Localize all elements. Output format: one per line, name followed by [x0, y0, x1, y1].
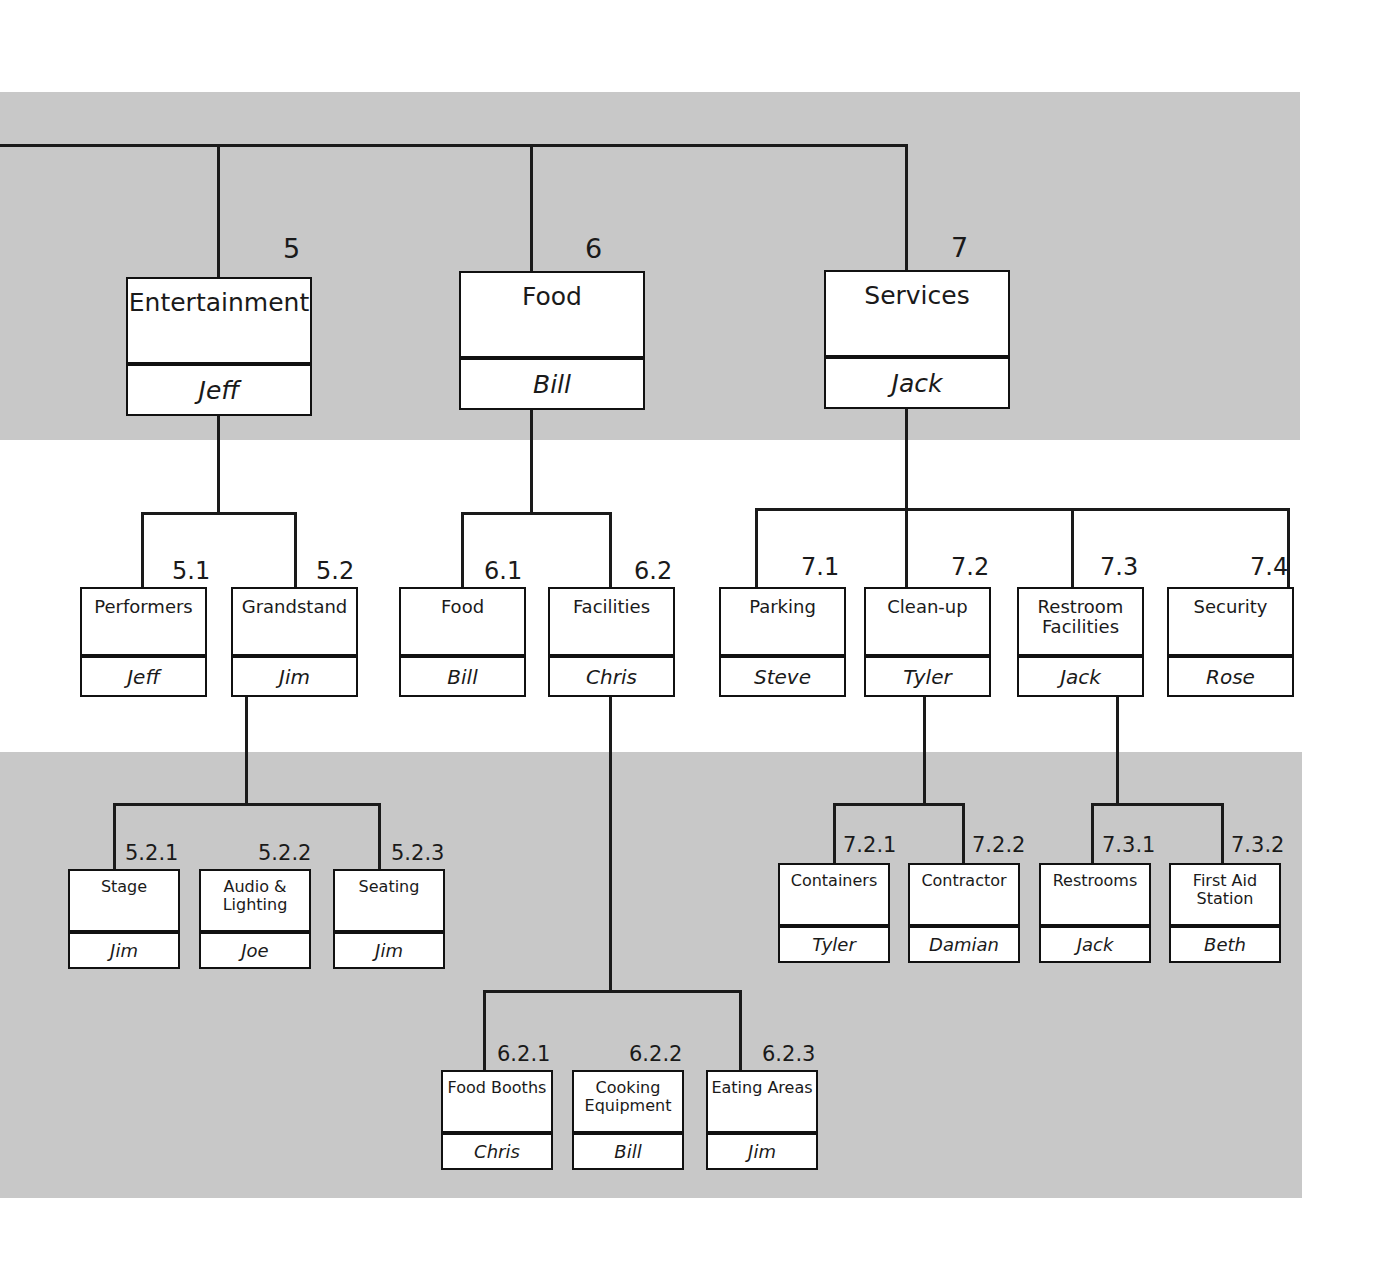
- connector-6-to-6-2: [609, 512, 612, 587]
- wbs-code-6-1: 6.1: [484, 557, 522, 585]
- wbs-node-food-sub[interactable]: Food Bill: [399, 587, 526, 697]
- connector-5-bus: [141, 512, 297, 515]
- connector-7-2-bus: [833, 803, 965, 806]
- connector-7-3-to-7-3-2: [1221, 803, 1224, 869]
- wbs-node-security[interactable]: Security Rose: [1167, 587, 1294, 697]
- connector-7-2-down: [923, 697, 926, 805]
- wbs-node-title: Entertainment: [128, 279, 310, 362]
- wbs-node-owner: Jack: [826, 355, 1008, 407]
- wbs-node-clean-up[interactable]: Clean-up Tyler: [864, 587, 991, 697]
- connector-5-down: [217, 415, 220, 514]
- connector-7-3-down: [1116, 697, 1119, 805]
- wbs-code-7-3-1: 7.3.1: [1102, 833, 1155, 857]
- wbs-node-title: Restrooms: [1041, 865, 1149, 924]
- wbs-node-owner: Jack: [1041, 924, 1149, 961]
- wbs-node-facilities[interactable]: Facilities Chris: [548, 587, 675, 697]
- wbs-node-audio-lighting[interactable]: Audio & Lighting Joe: [199, 869, 311, 969]
- wbs-node-owner: Joe: [201, 930, 309, 967]
- wbs-node-stage[interactable]: Stage Jim: [68, 869, 180, 969]
- wbs-code-6: 6: [585, 233, 602, 264]
- wbs-node-title: Grandstand: [233, 589, 356, 654]
- wbs-node-title: Services: [826, 272, 1008, 355]
- wbs-node-owner: Jim: [335, 930, 443, 967]
- connector-6-down: [530, 410, 533, 514]
- wbs-node-performers[interactable]: Performers Jeff: [80, 587, 207, 697]
- wbs-node-title: Cooking Equipment: [574, 1072, 682, 1131]
- wbs-node-owner: Jim: [70, 930, 178, 967]
- wbs-node-title: Clean-up: [866, 589, 989, 654]
- wbs-node-owner: Jim: [233, 654, 356, 695]
- wbs-node-entertainment[interactable]: Entertainment Jeff: [126, 277, 312, 416]
- wbs-node-title: Security: [1169, 589, 1292, 654]
- wbs-node-title: Contractor: [910, 865, 1018, 924]
- wbs-code-7-2-1: 7.2.1: [843, 833, 896, 857]
- wbs-node-title: Food Booths: [443, 1072, 551, 1131]
- connector-7-down: [905, 407, 908, 587]
- wbs-node-owner: Tyler: [780, 924, 888, 961]
- connector-5-2-to-5-2-3: [378, 803, 381, 869]
- wbs-node-owner: Chris: [550, 654, 673, 695]
- wbs-node-owner: Steve: [721, 654, 844, 695]
- wbs-node-title: Seating: [335, 871, 443, 930]
- wbs-node-first-aid-station[interactable]: First Aid Station Beth: [1169, 863, 1281, 963]
- connector-root-to-5: [217, 144, 220, 277]
- wbs-code-6-2-1: 6.2.1: [497, 1042, 550, 1066]
- wbs-node-title: Food: [401, 589, 524, 654]
- connector-7-bus: [755, 508, 1290, 511]
- connector-root-to-7: [905, 144, 908, 271]
- wbs-node-food-booths[interactable]: Food Booths Chris: [441, 1070, 553, 1170]
- connector-root-to-6: [530, 144, 533, 271]
- wbs-node-eating-areas[interactable]: Eating Areas Jim: [706, 1070, 818, 1170]
- wbs-node-owner: Jim: [708, 1131, 816, 1168]
- wbs-code-6-2-2: 6.2.2: [629, 1042, 682, 1066]
- wbs-node-owner: Bill: [461, 356, 643, 408]
- wbs-code-7-2-2: 7.2.2: [972, 833, 1025, 857]
- connector-7-to-7-1: [755, 508, 758, 587]
- wbs-code-7-2: 7.2: [951, 553, 989, 581]
- wbs-code-5: 5: [283, 233, 300, 264]
- wbs-node-owner: Jeff: [82, 654, 205, 695]
- wbs-code-7-3: 7.3: [1100, 553, 1138, 581]
- wbs-node-title: Stage: [70, 871, 178, 930]
- wbs-node-restroom-facilities[interactable]: Restroom Facilities Jack: [1017, 587, 1144, 697]
- wbs-code-7-1: 7.1: [801, 553, 839, 581]
- wbs-node-title: Performers: [82, 589, 205, 654]
- wbs-node-title: Parking: [721, 589, 844, 654]
- wbs-code-7: 7: [951, 232, 968, 263]
- wbs-node-owner: Jeff: [128, 362, 310, 414]
- connector-7-3-to-7-3-1: [1091, 803, 1094, 869]
- wbs-node-title: Food: [461, 273, 643, 356]
- wbs-node-seating[interactable]: Seating Jim: [333, 869, 445, 969]
- wbs-node-owner: Beth: [1171, 924, 1279, 961]
- wbs-node-restrooms[interactable]: Restrooms Jack: [1039, 863, 1151, 963]
- wbs-code-7-3-2: 7.3.2: [1231, 833, 1284, 857]
- wbs-node-owner: Damian: [910, 924, 1018, 961]
- wbs-code-7-4: 7.4: [1250, 553, 1288, 581]
- wbs-node-parking[interactable]: Parking Steve: [719, 587, 846, 697]
- connector-7-3-bus: [1091, 803, 1224, 806]
- wbs-node-services[interactable]: Services Jack: [824, 270, 1010, 409]
- connector-6-2-bus: [483, 990, 742, 993]
- wbs-node-food[interactable]: Food Bill: [459, 271, 645, 410]
- wbs-node-owner: Bill: [401, 654, 524, 695]
- wbs-node-owner: Tyler: [866, 654, 989, 695]
- connector-5-2-to-5-2-1: [113, 803, 116, 869]
- wbs-node-title: Audio & Lighting: [201, 871, 309, 930]
- connector-7-2-to-7-2-1: [833, 803, 836, 869]
- connector-root-horizontal: [0, 144, 908, 147]
- wbs-node-grandstand[interactable]: Grandstand Jim: [231, 587, 358, 697]
- wbs-diagram: 5 Entertainment Jeff 6 Food Bill 7 Servi…: [0, 0, 1374, 1285]
- wbs-code-5-2-3: 5.2.3: [391, 841, 444, 865]
- wbs-node-contractor[interactable]: Contractor Damian: [908, 863, 1020, 963]
- connector-7-2-to-7-2-2: [962, 803, 965, 869]
- wbs-node-title: First Aid Station: [1171, 865, 1279, 924]
- connector-5-2-bus: [113, 803, 381, 806]
- connector-6-bus: [461, 512, 612, 515]
- connector-5-to-5-1: [141, 512, 144, 587]
- wbs-code-5-2: 5.2: [316, 557, 354, 585]
- connector-5-2-down: [245, 697, 248, 805]
- wbs-node-containers[interactable]: Containers Tyler: [778, 863, 890, 963]
- connector-6-2-to-6-2-1: [483, 990, 486, 1070]
- wbs-code-5-1: 5.1: [172, 557, 210, 585]
- wbs-node-cooking-equipment[interactable]: Cooking Equipment Bill: [572, 1070, 684, 1170]
